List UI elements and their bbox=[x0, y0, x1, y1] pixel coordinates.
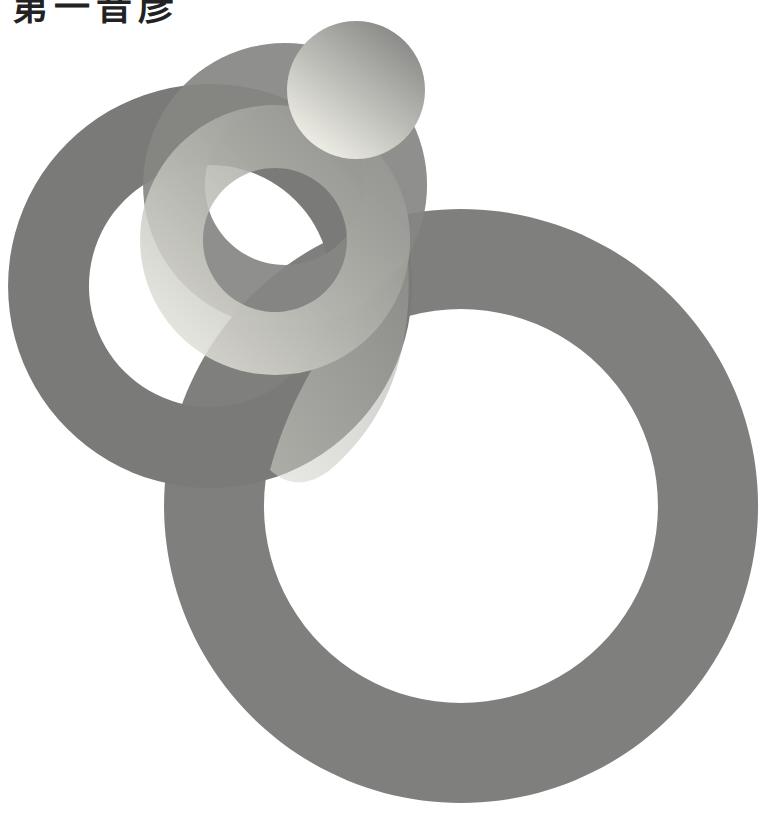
rings-artwork bbox=[0, 0, 770, 824]
sphere bbox=[287, 21, 425, 159]
